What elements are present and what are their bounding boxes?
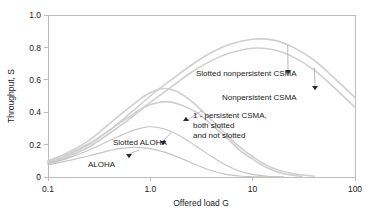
annotation-labels: Slotted nonpersistent CSMA Nonpersistent…	[88, 69, 297, 169]
plot-frame	[48, 15, 355, 177]
x-tick-label-2: 1.0	[144, 184, 156, 194]
label-one-persistent-csma-line2: both slotted	[193, 121, 234, 130]
x-axis-tick-labels: 0.1 1.0 10 100	[42, 184, 362, 194]
label-slotted-aloha: Slotted ALOHA	[113, 138, 167, 147]
data-curves	[48, 39, 355, 177]
y-axis-ticks	[44, 15, 48, 177]
chart-svg: 1.0 0.8 0.6 0.4 0.2 0 0.1 1.0 10 100 Off…	[0, 0, 373, 212]
x-tick-label-4: 100	[348, 184, 362, 194]
label-one-persistent-csma-line1: 1 - persistent CSMA,	[193, 111, 267, 120]
y-tick-label-5: 0.2	[29, 140, 41, 150]
y-tick-label-3: 0.6	[29, 75, 41, 85]
label-one-persistent-csma-line3: and not slotted	[193, 131, 245, 140]
label-aloha: ALOHA	[88, 160, 116, 169]
arrowhead-1	[312, 86, 318, 90]
throughput-vs-offered-load-chart: 1.0 0.8 0.6 0.4 0.2 0 0.1 1.0 10 100 Off…	[0, 0, 373, 212]
x-tick-label-3: 10	[248, 184, 258, 194]
y-tick-label-1: 1.0	[29, 10, 41, 20]
y-tick-label-4: 0.4	[29, 107, 41, 117]
x-axis-ticks	[48, 177, 355, 181]
y-axis-title: Throughput, S	[6, 69, 16, 123]
curve-nonpersistent-csma	[48, 48, 355, 163]
label-nonpersistent-csma: Nonpersistent CSMA	[222, 93, 297, 102]
label-slotted-nonpersistent-csma: Slotted nonpersistent CSMA	[196, 69, 297, 78]
arrowhead-2	[183, 117, 189, 121]
y-tick-label-2: 0.8	[29, 43, 41, 53]
curve-aloha	[48, 147, 283, 177]
y-axis-tick-labels: 1.0 0.8 0.6 0.4 0.2 0	[29, 10, 41, 182]
x-tick-label-1: 0.1	[42, 184, 54, 194]
leader-line-4	[129, 150, 139, 154]
y-tick-label-6: 0	[36, 172, 41, 182]
x-axis-title: Offered load G	[173, 198, 229, 208]
curve-slotted-aloha	[48, 127, 283, 177]
arrowhead-4	[126, 154, 132, 158]
